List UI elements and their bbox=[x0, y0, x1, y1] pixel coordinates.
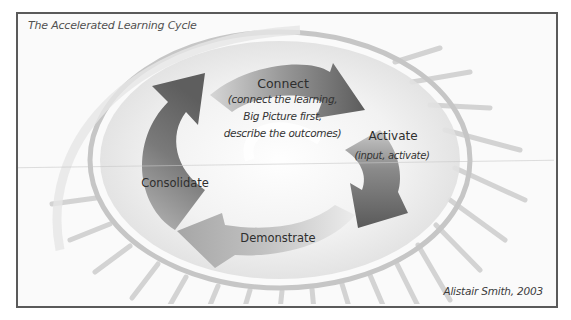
stage-activate-label: Activate bbox=[350, 129, 436, 143]
cycle-diagram bbox=[0, 0, 571, 320]
stage-demonstrate-label: Demonstrate bbox=[228, 231, 328, 245]
stage-connect-description: (connect the learning, Big Picture first… bbox=[195, 91, 370, 142]
stage-connect-label: Connect bbox=[233, 76, 333, 91]
diagram-title: The Accelerated Learning Cycle bbox=[28, 19, 197, 32]
description-line: (connect the learning, bbox=[195, 91, 370, 108]
description-line: describe the outcomes) bbox=[195, 125, 370, 142]
stage-activate-description: (input, activate) bbox=[340, 147, 444, 164]
stage-consolidate-label: Consolidate bbox=[130, 176, 220, 190]
description-line: (input, activate) bbox=[340, 147, 444, 164]
description-line: Big Picture first, bbox=[195, 108, 370, 125]
diagram-credit: Alistair Smith, 2003 bbox=[443, 285, 543, 297]
